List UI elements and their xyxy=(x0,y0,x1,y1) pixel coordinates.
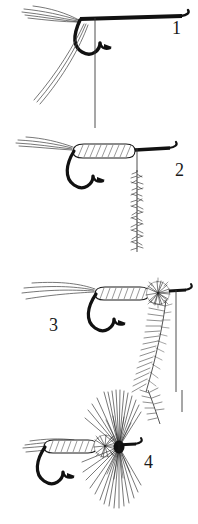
step-2-number: 2 xyxy=(175,160,184,180)
figure-illustration: 1 xyxy=(0,0,198,524)
fly-tying-figure: 1 xyxy=(0,0,198,524)
dubbing-ball xyxy=(94,435,116,458)
quill-body xyxy=(95,287,149,300)
step-3-number: 3 xyxy=(49,315,58,335)
step-1-number: 1 xyxy=(172,18,181,38)
hook-shank xyxy=(169,290,186,291)
quill-body xyxy=(44,440,97,453)
hook-shank xyxy=(135,148,170,150)
step-4-number: 4 xyxy=(144,452,153,472)
quill-body xyxy=(73,144,135,158)
